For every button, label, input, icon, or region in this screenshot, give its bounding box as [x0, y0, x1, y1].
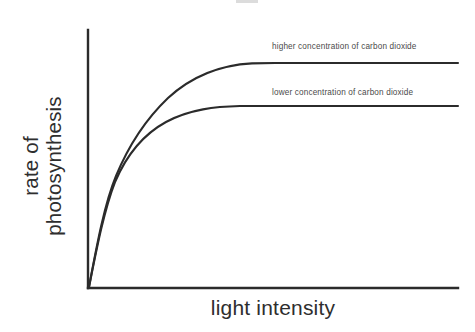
chart-figure: higher concentration of carbon dioxide l…: [0, 0, 475, 332]
y-axis-title: rate of photosynthesis: [0, 0, 85, 332]
curve-lower-co2: [89, 106, 458, 287]
series-label-lower-co2: lower concentration of carbon dioxide: [272, 88, 413, 97]
x-axis-title: light intensity: [88, 296, 458, 320]
y-axis-title-line-1: rate of: [20, 96, 43, 236]
series-label-higher-co2: higher concentration of carbon dioxide: [272, 42, 417, 51]
y-axis-title-line-2: photosynthesis: [43, 96, 66, 236]
